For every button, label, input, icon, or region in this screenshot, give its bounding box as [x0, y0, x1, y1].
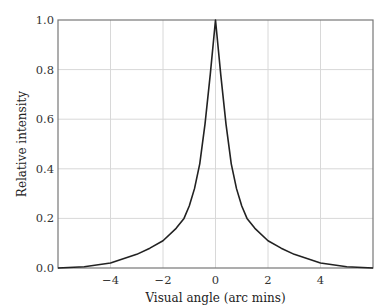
y-tick-label: 0.2 [36, 211, 54, 225]
x-tick-label: 4 [317, 273, 324, 287]
y-tick-label: 0.4 [36, 162, 54, 176]
x-tick-label: 0 [212, 273, 219, 287]
y-axis-label: Relative intensity [15, 91, 29, 198]
x-tick-label: −4 [102, 273, 119, 287]
x-axis-label: Visual angle (arc mins) [144, 291, 285, 305]
x-tick-label: −2 [155, 273, 172, 287]
y-tick-label: 1.0 [36, 13, 54, 27]
x-tick-label: 2 [264, 273, 271, 287]
chart: −4−20240.00.20.40.60.81.0Visual angle (a… [0, 0, 391, 308]
y-tick-label: 0.0 [36, 261, 54, 275]
y-tick-label: 0.8 [36, 63, 54, 77]
y-tick-label: 0.6 [36, 112, 54, 126]
